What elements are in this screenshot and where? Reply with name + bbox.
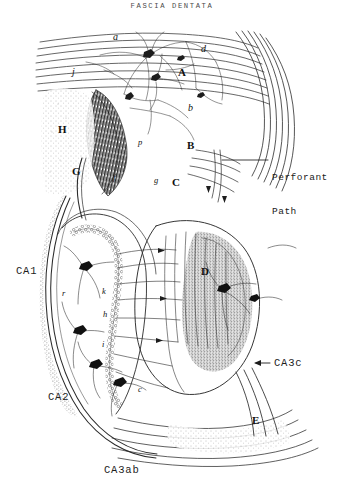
anatomical-drawing <box>0 0 344 490</box>
anatomical-label-a: a <box>113 31 118 43</box>
anatomical-label-E: E <box>252 414 259 427</box>
anatomical-label-B: B <box>187 139 194 152</box>
hippocampus-figure: FASCIA DENTATA <box>0 0 344 490</box>
callout-perforant-path-line2: Path <box>272 206 328 217</box>
callout-perforant-path-line1: Perforant <box>272 172 328 183</box>
anatomical-label-k: k <box>102 286 106 296</box>
region-label-ca1: CA1 <box>16 265 37 277</box>
anatomical-label-p: p <box>138 137 142 147</box>
region-label-ca3ab: CA3ab <box>104 464 140 476</box>
anatomical-label-D: D <box>201 265 209 278</box>
region-label-ca2: CA2 <box>48 391 69 403</box>
anatomical-label-G: G <box>72 165 81 178</box>
anatomical-label-h: h <box>103 309 107 319</box>
anatomical-label-c: c <box>138 384 142 394</box>
anatomical-label-H: H <box>58 123 67 136</box>
anatomical-label-j: j <box>72 66 75 78</box>
anatomical-label-g: g <box>154 175 158 185</box>
anatomical-label-i: i <box>102 339 104 349</box>
callout-perforant-path: Perforant Path <box>272 150 328 240</box>
anatomical-label-b: b <box>188 102 193 114</box>
anatomical-label-d: d <box>201 43 206 55</box>
anatomical-label-C: C <box>172 176 180 189</box>
anatomical-label-f: f <box>113 172 115 182</box>
region-label-ca3c: CA3c <box>274 357 302 369</box>
anatomical-label-r: r <box>62 288 65 298</box>
anatomical-label-A: A <box>178 66 186 79</box>
